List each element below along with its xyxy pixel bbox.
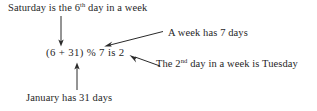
arrow-saturday-to-six bbox=[58, 16, 63, 47]
arrow-tuesday-to-two bbox=[130, 55, 161, 66]
arrow-week-to-seven-head bbox=[104, 42, 112, 47]
arrow-january-to-thirtyone bbox=[74, 63, 79, 91]
arrow-week-to-seven-shaft bbox=[110, 32, 163, 46]
arrow-layer bbox=[0, 0, 317, 111]
arrow-tuesday-to-two-shaft bbox=[135, 57, 160, 66]
arrow-week-to-seven bbox=[104, 32, 163, 47]
arrow-tuesday-to-two-head bbox=[130, 55, 137, 63]
diagram-canvas: Saturday is the 6th day in a week (6 + 3… bbox=[0, 0, 317, 111]
